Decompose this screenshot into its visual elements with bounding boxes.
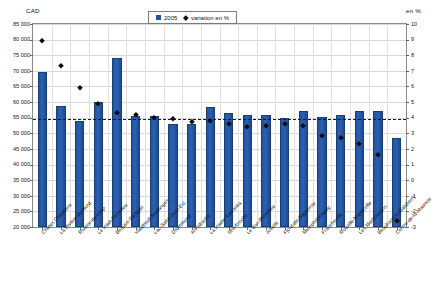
y-tick-label-right: 10 <box>411 21 431 27</box>
y-tick-label-left: 65 000 <box>0 83 30 89</box>
y-tick-label-left: 40 000 <box>0 161 30 167</box>
y-axis-title-right: en % <box>406 7 421 14</box>
gridline-vertical <box>294 24 295 227</box>
diamond-icon <box>184 15 189 20</box>
bar-4[interactable] <box>112 58 121 227</box>
y-tick-label-left: 75 000 <box>0 52 30 58</box>
data-point-1[interactable] <box>58 63 64 69</box>
y-tick-mark-right <box>406 71 409 72</box>
gridline-vertical <box>89 24 90 227</box>
bar-9[interactable] <box>206 107 215 227</box>
gridline-vertical <box>369 24 370 227</box>
data-point-2[interactable] <box>77 85 83 91</box>
y-tick-mark-right <box>406 180 409 181</box>
y-tick-mark-right <box>406 211 409 212</box>
gridline-vertical <box>387 24 388 227</box>
legend-label-2005: 2005 <box>164 15 177 21</box>
y-tick-mark-left <box>30 180 33 181</box>
y-tick-label-right: 1 <box>411 161 431 167</box>
y-tick-label-left: 45 000 <box>0 146 30 152</box>
y-tick-mark-left <box>30 165 33 166</box>
legend-item-variation[interactable]: variation en % <box>184 15 229 21</box>
y-tick-mark-right <box>406 40 409 41</box>
gridline-vertical <box>331 24 332 227</box>
gridline-vertical <box>201 24 202 227</box>
gridline-vertical <box>275 24 276 227</box>
legend-item-2005[interactable]: 2005 <box>156 15 177 21</box>
y-tick-mark-right <box>406 24 409 25</box>
bar-0[interactable] <box>38 72 47 227</box>
y-tick-mark-left <box>30 71 33 72</box>
y-tick-label-left: 55 000 <box>0 114 30 120</box>
y-tick-mark-right <box>406 149 409 150</box>
gridline-vertical <box>220 24 221 227</box>
y-tick-mark-left <box>30 102 33 103</box>
y-tick-label-right: 4 <box>411 114 431 120</box>
gridline-vertical <box>350 24 351 227</box>
y-tick-label-right: 7 <box>411 68 431 74</box>
y-tick-label-left: 25 000 <box>0 208 30 214</box>
y-tick-label-right: 6 <box>411 83 431 89</box>
y-tick-label-left: 20 000 <box>0 224 30 230</box>
gridline-vertical <box>313 24 314 227</box>
y-tick-label-left: 50 000 <box>0 130 30 136</box>
gridline-vertical <box>126 24 127 227</box>
legend-label-variation: variation en % <box>191 15 229 21</box>
y-tick-label-right: 5 <box>411 99 431 105</box>
y-tick-label-left: 30 000 <box>0 193 30 199</box>
y-tick-mark-left <box>30 227 33 228</box>
y-tick-mark-left <box>30 149 33 150</box>
gridline-vertical <box>257 24 258 227</box>
y-tick-label-right: 8 <box>411 52 431 58</box>
y-tick-mark-left <box>30 86 33 87</box>
bar-13[interactable] <box>280 118 289 227</box>
gridline-vertical <box>238 24 239 227</box>
bar-11[interactable] <box>243 115 252 227</box>
plot-inner <box>33 24 406 227</box>
y-tick-mark-left <box>30 133 33 134</box>
y-tick-mark-left <box>30 40 33 41</box>
y-tick-label-right: -3 <box>411 224 431 230</box>
y-tick-mark-left <box>30 55 33 56</box>
gridline-vertical <box>108 24 109 227</box>
y-tick-label-left: 60 000 <box>0 99 30 105</box>
y-tick-label-left: 85 000 <box>0 21 30 27</box>
gridline-vertical <box>145 24 146 227</box>
y-tick-mark-right <box>406 102 409 103</box>
chart-legend: 2005 variation en % <box>148 11 237 24</box>
y-tick-mark-right <box>406 165 409 166</box>
bar-16[interactable] <box>336 115 345 227</box>
square-icon <box>156 15 161 20</box>
y-tick-mark-right <box>406 133 409 134</box>
reference-line <box>33 119 406 120</box>
data-point-7[interactable] <box>170 116 176 122</box>
y-tick-mark-right <box>406 118 409 119</box>
gridline-vertical <box>52 24 53 227</box>
y-tick-mark-left <box>30 196 33 197</box>
y-tick-label-left: 70 000 <box>0 68 30 74</box>
y-tick-label-right: 3 <box>411 130 431 136</box>
gridline-vertical <box>182 24 183 227</box>
y-tick-label-left: 80 000 <box>0 36 30 42</box>
y-tick-mark-right <box>406 227 409 228</box>
y-tick-mark-left <box>30 118 33 119</box>
y-tick-mark-right <box>406 86 409 87</box>
plot-area <box>32 23 407 228</box>
y-tick-label-left: 35 000 <box>0 177 30 183</box>
bar-8[interactable] <box>187 124 196 227</box>
y-tick-label-right: 0 <box>411 177 431 183</box>
y-tick-mark-right <box>406 55 409 56</box>
y-tick-mark-left <box>30 211 33 212</box>
y-tick-label-right: 9 <box>411 36 431 42</box>
y-tick-mark-left <box>30 24 33 25</box>
y-tick-label-right: 2 <box>411 146 431 152</box>
chart-container: CAD en % 2005 variation en % 85 00080 00… <box>0 0 440 290</box>
y-axis-title-left: CAD <box>26 7 40 14</box>
gridline-vertical <box>70 24 71 227</box>
